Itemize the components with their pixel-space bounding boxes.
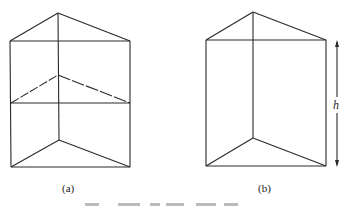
edge	[11, 140, 59, 167]
edge	[253, 12, 326, 40]
figure-canvas: (a) h (b)	[0, 0, 345, 206]
edge	[253, 138, 326, 166]
edge	[58, 13, 59, 140]
panel-label-b: (b)	[258, 182, 271, 195]
prism-b: h (b)	[206, 12, 339, 195]
edge	[59, 140, 130, 167]
height-dimension: h	[333, 40, 339, 167]
edge	[10, 41, 11, 167]
edge	[206, 138, 253, 166]
edge	[206, 12, 253, 40]
edge	[58, 75, 130, 103]
edge	[10, 13, 58, 41]
arrow-down-icon	[335, 160, 339, 167]
edge	[58, 13, 130, 41]
edge	[11, 75, 58, 103]
height-label: h	[333, 98, 339, 112]
arrow-up-icon	[335, 40, 339, 47]
prism-a: (a)	[10, 13, 130, 195]
truncated-caption	[85, 203, 238, 206]
panel-label-a: (a)	[62, 182, 75, 195]
